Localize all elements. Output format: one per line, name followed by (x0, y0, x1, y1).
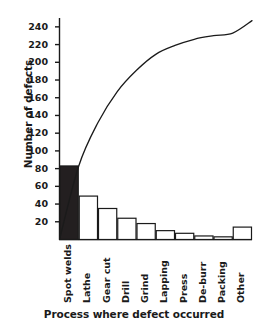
x-axis-tick-label-lapping: Lapping (158, 260, 169, 303)
x-axis-tick-label-press: Press (178, 274, 189, 303)
x-axis-tick-label-drill: Drill (120, 281, 131, 303)
x-axis-tick-label-lathe: Lathe (81, 273, 92, 303)
x-axis-tick-label-other: Other (235, 272, 246, 303)
x-axis-title: Process where defect occurred (0, 308, 268, 320)
x-axis-tick-label-de-burr: De-burr (197, 262, 208, 303)
x-axis-tick-label-spot-welds: Spot welds (62, 244, 73, 303)
x-axis-tick-label-packing: Packing (216, 261, 227, 303)
x-axis-tick-label-grind: Grind (139, 274, 150, 303)
x-axis-tick-label-gear-cut: Gear cut (101, 257, 112, 303)
x-axis-tick-labels: Spot weldsLatheGear cutDrillGrindLapping… (0, 0, 268, 329)
pareto-chart: Number of defects 2040608010012014016018… (0, 0, 268, 329)
